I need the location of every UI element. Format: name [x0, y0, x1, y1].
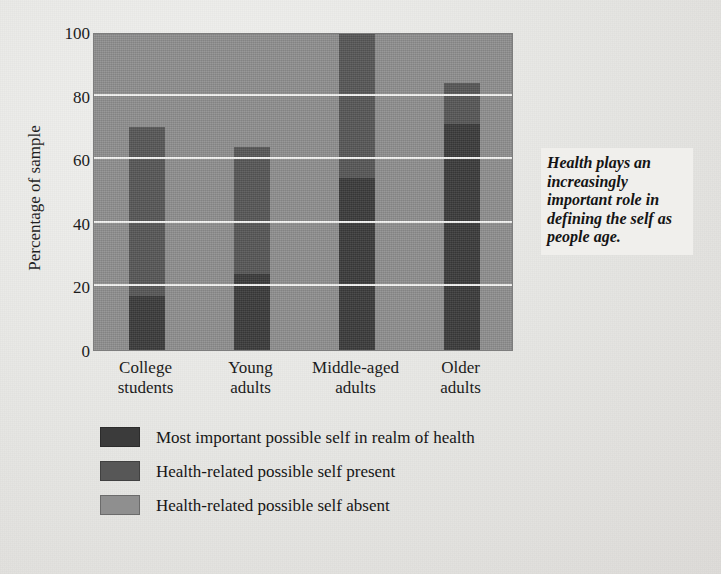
legend-swatch-icon [100, 461, 140, 481]
stacked-bar [339, 33, 375, 350]
y-axis-tick-label: 80 [44, 89, 90, 106]
legend-item: Most important possible self in realm of… [100, 420, 660, 454]
gridline [94, 221, 512, 223]
x-axis-tick-label: Middle-agedadults [297, 358, 414, 399]
legend-item-label: Health-related possible self present [156, 463, 395, 480]
x-axis-tick-label-line: College [87, 358, 204, 378]
chart-legend: Most important possible self in realm of… [100, 420, 660, 522]
x-axis-tick-label-line: Older [402, 358, 519, 378]
y-axis-tick-label: 60 [44, 152, 90, 169]
bar-segment [234, 147, 270, 274]
bar-segment [129, 127, 165, 296]
legend-item-label: Most important possible self in realm of… [156, 429, 475, 446]
legend-item: Health-related possible self absent [100, 488, 660, 522]
y-axis-tick-label: 0 [44, 343, 90, 360]
x-axis-tick-label-line: adults [297, 378, 414, 398]
bar-segment [129, 296, 165, 350]
stacked-bar [129, 33, 165, 350]
callout-text: Health plays an increasingly important r… [547, 154, 685, 247]
legend-swatch-icon [100, 495, 140, 515]
chart-figure: Percentage of sample 020406080100 Colleg… [0, 0, 721, 574]
bar-segment [444, 83, 480, 124]
x-axis-tick-label-line: adults [192, 378, 309, 398]
callout-box: Health plays an increasingly important r… [541, 148, 693, 255]
y-axis-tick-labels: 020406080100 [44, 22, 90, 362]
x-axis-tick-label: Collegestudents [87, 358, 204, 399]
legend-swatch-icon [100, 427, 140, 447]
legend-item: Health-related possible self present [100, 454, 660, 488]
gridline [94, 157, 512, 159]
bar-segment [129, 33, 165, 127]
y-axis-tick-label: 40 [44, 216, 90, 233]
gridline [94, 94, 512, 96]
y-axis-tick-label: 20 [44, 279, 90, 296]
x-axis-tick-label-line: Middle-aged [297, 358, 414, 378]
plot-area [93, 33, 513, 351]
x-axis-tick-label-line: adults [402, 378, 519, 398]
y-axis-tick-label: 100 [44, 25, 90, 42]
x-axis-tick-label: Olderadults [402, 358, 519, 399]
bar-segment [444, 33, 480, 83]
x-axis-tick-labels: CollegestudentsYoungadultsMiddle-agedadu… [93, 358, 513, 412]
bar-segment [339, 178, 375, 350]
x-axis-tick-label: Youngadults [192, 358, 309, 399]
legend-item-label: Health-related possible self absent [156, 497, 390, 514]
gridline [94, 284, 512, 286]
stacked-bar [444, 33, 480, 350]
bar-segment [234, 33, 270, 146]
y-axis-title-text: Percentage of sample [25, 125, 45, 270]
x-axis-tick-label-line: students [87, 378, 204, 398]
x-axis-tick-label-line: Young [192, 358, 309, 378]
stacked-bar [234, 33, 270, 350]
